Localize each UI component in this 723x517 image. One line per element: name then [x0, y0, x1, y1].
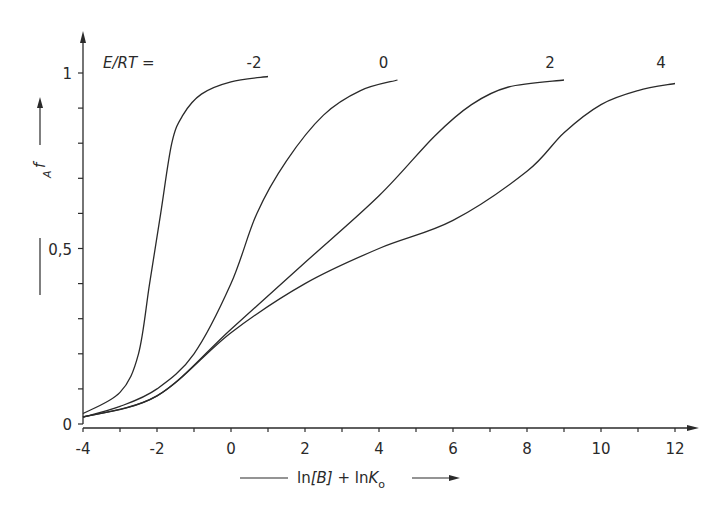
- curve--2: [83, 77, 268, 414]
- x-tick-label: 10: [591, 440, 610, 458]
- x-axis-label-ln1: ln: [297, 469, 311, 487]
- x-tick-label: 8: [522, 440, 532, 458]
- chart-canvas: 010,5 -4-2024681012 -2024 E/RT = f A ln[…: [0, 0, 723, 517]
- y-ticks: [78, 73, 83, 424]
- curve-label: -2: [247, 54, 262, 72]
- y-axis-title: f A: [31, 97, 54, 295]
- x-tick-label: 0: [226, 440, 236, 458]
- y-tick-label: 1: [62, 65, 72, 83]
- curve-0: [83, 80, 398, 417]
- curve-label: 2: [545, 54, 555, 72]
- legend-title: E/RT =: [103, 54, 154, 72]
- x-axis-label-b: [B]: [311, 469, 333, 487]
- curves: [83, 77, 675, 418]
- y-tick-labels: 010,5: [48, 65, 72, 434]
- y-axis-label: f: [31, 160, 49, 168]
- x-axis-label-sub: o: [378, 478, 385, 491]
- y-title-arrow-icon: [37, 97, 43, 108]
- y-axis-label-sub: A: [41, 170, 54, 179]
- x-tick-label: 6: [448, 440, 458, 458]
- x-tick-label: -2: [150, 440, 165, 458]
- curve-label: 4: [656, 54, 666, 72]
- x-tick-label: -4: [76, 440, 91, 458]
- x-axis-label-ln2: + ln: [333, 469, 369, 487]
- x-tick-label: 2: [300, 440, 310, 458]
- curve-label: 0: [379, 54, 389, 72]
- x-axis-arrow-icon: [687, 425, 699, 431]
- y-axis-arrow-icon: [80, 31, 86, 43]
- svg-text:ln[B] + lnKo: ln[B] + lnKo: [297, 469, 385, 491]
- x-tick-label: 12: [665, 440, 684, 458]
- x-title-arrow-icon: [449, 475, 460, 481]
- x-tick-label: 4: [374, 440, 384, 458]
- curve-labels: -2024: [247, 54, 666, 72]
- x-axis-title: ln[B] + lnKo: [240, 469, 460, 491]
- x-tick-labels: -4-2024681012: [76, 440, 685, 458]
- y-tick-label: 0: [62, 416, 72, 434]
- y-tick-label: 0,5: [48, 241, 72, 259]
- curve-4: [83, 84, 675, 418]
